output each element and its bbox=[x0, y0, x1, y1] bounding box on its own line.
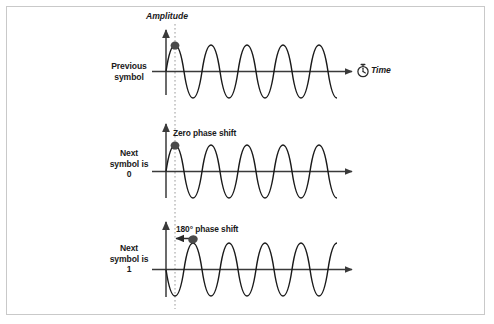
annotation-zero-phase-shift: Zero phase shift bbox=[173, 128, 236, 138]
row-label-line-1: Next bbox=[92, 243, 166, 254]
phase-marker-row3 bbox=[187, 234, 198, 244]
row-label-next-symbol-0: Next symbol is 0 bbox=[92, 148, 166, 180]
amplitude-axis-label: Amplitude bbox=[146, 11, 188, 21]
row-label-previous-symbol: Previous symbol bbox=[92, 61, 166, 82]
figure-root: Amplitude Time Previous symbol Next symb… bbox=[0, 0, 494, 324]
row-label-line-1: Next bbox=[92, 148, 166, 159]
time-axis-label: Time bbox=[371, 65, 391, 75]
row-label-line-3: 0 bbox=[92, 169, 166, 180]
phase-marker-row1 bbox=[171, 42, 180, 50]
row-label-line-1: Previous bbox=[92, 61, 166, 72]
annotation-180-phase-shift: 180° phase shift bbox=[176, 224, 238, 234]
row-label-next-symbol-1: Next symbol is 1 bbox=[92, 243, 166, 275]
waveform-canvas bbox=[0, 0, 494, 324]
row-previous-symbol bbox=[152, 30, 352, 98]
phase-marker-row2 bbox=[171, 142, 180, 150]
row-label-line-2: symbol bbox=[92, 72, 166, 83]
stopwatch-icon bbox=[356, 62, 370, 78]
row-label-line-2: symbol is bbox=[92, 254, 166, 265]
row-label-line-2: symbol is bbox=[92, 159, 166, 170]
row-label-line-3: 1 bbox=[92, 264, 166, 275]
